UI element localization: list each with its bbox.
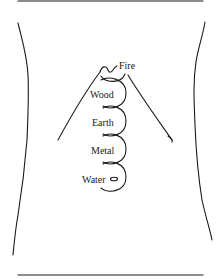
label-wood: Wood [90, 89, 114, 100]
label-fire: Fire [119, 60, 136, 71]
ribcage-left [58, 72, 100, 140]
label-metal: Metal [91, 145, 115, 156]
torso-diagram: Fire Wood Earth Metal Water [0, 0, 221, 279]
label-earth: Earth [92, 117, 114, 128]
ribcage-right [128, 75, 172, 140]
water-oval-icon [111, 177, 118, 181]
ribcage-right-end [168, 136, 172, 142]
torso-right-contour [194, 22, 212, 240]
fire-arc [101, 74, 125, 81]
label-water: Water [82, 174, 106, 185]
diagram-canvas: Fire Wood Earth Metal Water [0, 0, 221, 279]
torso-left-contour [13, 23, 28, 255]
fire-loop [100, 66, 117, 72]
